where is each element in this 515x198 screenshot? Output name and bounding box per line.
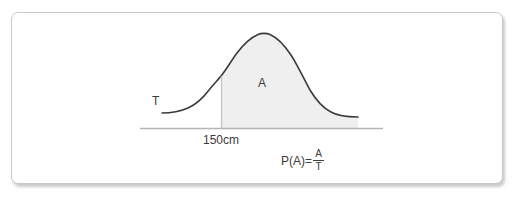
formula-left-hand-side: P(A)= xyxy=(281,155,312,167)
figure-root: T A 150cm P(A)= A T xyxy=(0,0,515,198)
threshold-axis-label: 150cm xyxy=(195,134,247,146)
formula-numerator: A xyxy=(313,149,324,160)
probability-formula: P(A)= A T xyxy=(281,149,324,172)
total-area-label: T xyxy=(152,95,159,107)
distribution-plot xyxy=(0,0,515,198)
shaded-area-label: A xyxy=(258,77,266,89)
formula-fraction: A T xyxy=(313,149,324,172)
formula-denominator: T xyxy=(313,161,323,172)
